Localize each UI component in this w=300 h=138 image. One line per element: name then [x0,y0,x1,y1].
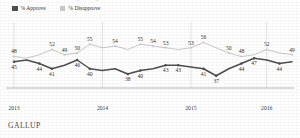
data-point-approve-2 [38,62,41,65]
point-label-approve-2: 44 [36,66,42,72]
point-label-disapprove-6: 55 [87,36,93,42]
data-point-disapprove-15 [203,42,205,44]
x-axis-label-2016: 2016 [261,104,272,112]
point-label-approve-5: 46 [74,62,80,68]
data-point-approve-9 [126,73,129,76]
data-point-disapprove-5 [76,52,78,54]
data-point-disapprove-0 [13,56,15,58]
data-point-approve-18 [240,62,243,65]
point-label-disapprove-12: 53 [163,40,169,46]
data-point-approve-13 [177,64,180,67]
x-axis-label-2015: 2015 [185,104,196,112]
point-label-approve-16: 37 [213,78,219,84]
data-point-approve-21 [278,62,281,65]
point-label-disapprove-5: 50 [74,45,80,51]
point-label-disapprove-4: 49 [62,47,68,53]
legend-label-approve: % Approve [21,5,46,12]
data-point-approve-3 [51,68,54,71]
data-point-approve-0 [13,61,16,64]
data-point-disapprove-6 [89,43,91,45]
legend-item-approve: % Approve [12,5,46,12]
data-point-disapprove-20 [266,49,268,51]
legend-label-disapprove: % Disapprove [68,5,100,12]
point-label-approve-10: 40 [138,73,144,79]
data-point-disapprove-4 [64,54,66,56]
point-label-approve-18: 44 [239,66,245,72]
chart-svg: 4852495055545554535356504852494544414640… [0,16,300,106]
point-label-disapprove-15: 56 [201,34,207,40]
point-label-disapprove-20: 52 [264,41,270,47]
point-label-approve-19: 47 [251,60,257,66]
point-label-disapprove-11: 54 [150,38,156,44]
series-line-disapprove [14,43,292,59]
point-label-disapprove-0: 48 [11,48,17,54]
data-point-disapprove-17 [228,52,230,54]
data-point-approve-12 [164,64,167,67]
data-point-approve-10 [139,69,142,72]
point-label-approve-0: 45 [11,64,17,70]
x-axis-label-2014: 2014 [97,104,108,112]
data-point-disapprove-22 [291,54,293,56]
point-label-disapprove-18: 48 [239,48,245,54]
chart-legend: % Approve % Disapprove [12,5,100,12]
point-label-approve-12: 43 [163,67,169,73]
point-label-approve-13: 43 [175,67,181,73]
data-point-disapprove-3 [51,49,53,51]
data-point-approve-16 [215,75,218,78]
point-label-disapprove-14: 53 [188,40,194,46]
data-point-approve-5 [76,59,79,62]
gallup-brand-footer: GALLUP [8,121,41,131]
legend-item-disapprove: % Disapprove [60,5,100,12]
point-label-disapprove-8: 54 [112,38,118,44]
data-point-disapprove-10 [139,43,141,45]
point-label-approve-15: 41 [201,71,207,77]
data-point-disapprove-14 [190,47,192,49]
data-point-approve-19 [253,57,256,60]
line-chart-plot-area: 4852495055545554535356504852494544414640… [0,16,300,106]
point-label-disapprove-3: 52 [49,41,55,47]
data-point-disapprove-12 [165,47,167,49]
point-label-approve-6: 40 [87,71,93,77]
cut-off-headline: ...the use of American troops to fight I… [8,0,292,1]
x-axis-label-2013: 2013 [8,104,19,112]
data-point-approve-6 [89,68,92,71]
legend-swatch-disapprove [60,6,66,12]
legend-swatch-approve [12,6,18,12]
point-label-disapprove-17: 50 [226,45,232,51]
data-point-disapprove-8 [114,45,116,47]
point-label-approve-21: 44 [277,66,283,72]
point-label-disapprove-22: 49 [289,47,295,53]
data-point-approve-15 [202,68,205,71]
point-label-disapprove-10: 55 [138,36,144,42]
point-label-approve-9: 38 [125,76,131,82]
data-point-disapprove-11 [152,45,154,47]
data-point-disapprove-18 [240,56,242,58]
point-label-approve-3: 41 [49,71,55,77]
x-axis-tick-labels: 2013201420152016 [0,104,300,116]
